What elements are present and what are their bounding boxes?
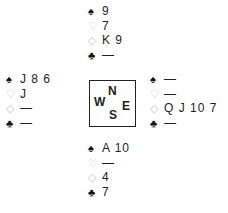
west-hand: ♠J 8 6 ♡J ◇— ♣— xyxy=(6,72,51,130)
west-clubs-cards: — xyxy=(20,116,33,131)
south-hearts: ♡— xyxy=(88,156,130,171)
club-icon: ♣ xyxy=(150,116,164,131)
north-diamonds-cards: K 9 xyxy=(102,33,123,48)
spade-icon: ♠ xyxy=(88,141,102,156)
west-clubs: ♣— xyxy=(6,116,51,131)
compass-box: N W E S xyxy=(89,80,136,127)
south-hearts-cards: — xyxy=(102,156,115,171)
south-clubs: ♣7 xyxy=(88,185,130,200)
east-clubs-cards: — xyxy=(164,116,177,131)
north-clubs: ♣— xyxy=(88,48,123,63)
spade-icon: ♠ xyxy=(6,72,20,87)
west-hearts-cards: J xyxy=(20,87,27,102)
spade-icon: ♠ xyxy=(88,4,102,19)
north-hearts-cards: 7 xyxy=(102,19,110,34)
south-hand: ♠A 10 ♡— ◇4 ♣7 xyxy=(88,141,130,199)
east-hearts-cards: — xyxy=(164,87,177,102)
club-icon: ♣ xyxy=(88,185,102,200)
south-clubs-cards: 7 xyxy=(102,185,110,200)
south-spades: ♠A 10 xyxy=(88,141,130,156)
club-icon: ♣ xyxy=(88,48,102,63)
heart-icon: ♡ xyxy=(6,87,20,102)
compass-north: N xyxy=(108,84,117,98)
heart-icon: ♡ xyxy=(88,19,102,34)
east-hearts: ♡— xyxy=(150,87,217,102)
east-clubs: ♣— xyxy=(150,116,217,131)
west-spades: ♠J 8 6 xyxy=(6,72,51,87)
diamond-icon: ◇ xyxy=(150,101,164,116)
east-hand: ♠— ♡— ◇Q J 10 7 ♣— xyxy=(150,72,217,130)
south-diamonds: ◇4 xyxy=(88,170,130,185)
north-hearts: ♡7 xyxy=(88,19,123,34)
diamond-icon: ◇ xyxy=(88,33,102,48)
heart-icon: ♡ xyxy=(150,87,164,102)
north-spades: ♠9 xyxy=(88,4,123,19)
diamond-icon: ◇ xyxy=(88,170,102,185)
west-spades-cards: J 8 6 xyxy=(20,72,51,87)
diamond-icon: ◇ xyxy=(6,101,20,116)
north-spades-cards: 9 xyxy=(102,4,110,19)
compass-west: W xyxy=(94,95,105,109)
west-diamonds-cards: — xyxy=(20,101,33,116)
north-clubs-cards: — xyxy=(102,48,115,63)
club-icon: ♣ xyxy=(6,116,20,131)
north-hand: ♠9 ♡7 ◇K 9 ♣— xyxy=(88,4,123,62)
east-spades: ♠— xyxy=(150,72,217,87)
east-diamonds-cards: Q J 10 7 xyxy=(164,101,217,116)
west-diamonds: ◇— xyxy=(6,101,51,116)
north-diamonds: ◇K 9 xyxy=(88,33,123,48)
south-spades-cards: A 10 xyxy=(102,141,130,156)
east-spades-cards: — xyxy=(164,72,177,87)
east-diamonds: ◇Q J 10 7 xyxy=(150,101,217,116)
heart-icon: ♡ xyxy=(88,156,102,171)
west-hearts: ♡J xyxy=(6,87,51,102)
south-diamonds-cards: 4 xyxy=(102,170,110,185)
compass-south: S xyxy=(109,108,117,122)
spade-icon: ♠ xyxy=(150,72,164,87)
compass-east: E xyxy=(122,99,130,113)
